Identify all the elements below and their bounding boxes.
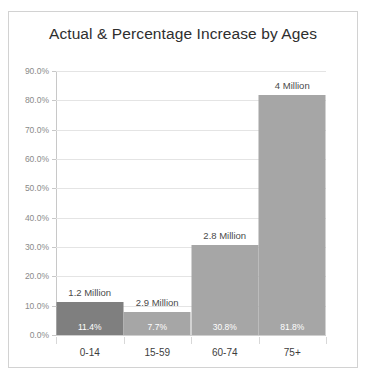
x-axis-tick-label: 0-14 [56, 347, 124, 358]
y-axis-tick-label: 20.0% [25, 271, 49, 281]
x-axis-tick-label: 60-74 [191, 347, 259, 358]
y-axis-tick-label: 90.0% [25, 66, 49, 76]
bar[interactable]: 30.8% [191, 245, 258, 335]
bar-slot: 30.8%2.8 Million [191, 71, 259, 335]
bar[interactable]: 81.8% [259, 95, 326, 335]
x-axis-tick-labels: 0-1415-5960-7475+ [56, 337, 326, 367]
y-axis-tick-label: 30.0% [25, 242, 49, 252]
bar-value-label: 4 Million [275, 80, 310, 91]
x-axis-divider [326, 337, 327, 344]
x-axis-tick-label: 15-59 [124, 347, 192, 358]
bar-value-label: 2.8 Million [203, 230, 246, 241]
x-axis-tick-label: 75+ [259, 347, 327, 358]
bar-slot: 81.8%4 Million [259, 71, 327, 335]
bar-slot: 7.7%2.9 Million [124, 71, 192, 335]
y-axis-tick-label: 10.0% [25, 301, 49, 311]
plot-area: 0.0%10.0%20.0%30.0%40.0%50.0%60.0%70.0%8… [56, 71, 326, 335]
bar[interactable]: 7.7% [124, 312, 191, 335]
chart-frame: Actual & Percentage Increase by Ages 0.0… [8, 11, 358, 368]
y-axis-tick-label: 50.0% [25, 183, 49, 193]
bar-percent-label: 11.4% [56, 322, 123, 332]
y-axis-tick-mark [52, 335, 56, 336]
bar-value-label: 1.2 Million [68, 287, 111, 298]
y-axis-tick-label: 0.0% [30, 330, 49, 340]
y-axis-tick-label: 60.0% [25, 154, 49, 164]
bar-percent-label: 7.7% [124, 322, 191, 332]
bar-value-label: 2.9 Million [136, 297, 179, 308]
bar[interactable]: 11.4% [56, 302, 123, 335]
x-axis-divider [191, 337, 192, 344]
y-axis-tick-label: 40.0% [25, 213, 49, 223]
bar-percent-label: 81.8% [259, 322, 326, 332]
bar-slot: 11.4%1.2 Million [56, 71, 124, 335]
x-axis-divider [259, 337, 260, 344]
x-axis-divider [56, 337, 57, 344]
gridline [56, 335, 326, 336]
bar-percent-label: 30.8% [191, 322, 258, 332]
chart-title: Actual & Percentage Increase by Ages [9, 25, 357, 43]
y-axis-tick-label: 70.0% [25, 125, 49, 135]
x-axis-divider [124, 337, 125, 344]
y-axis-tick-label: 80.0% [25, 95, 49, 105]
